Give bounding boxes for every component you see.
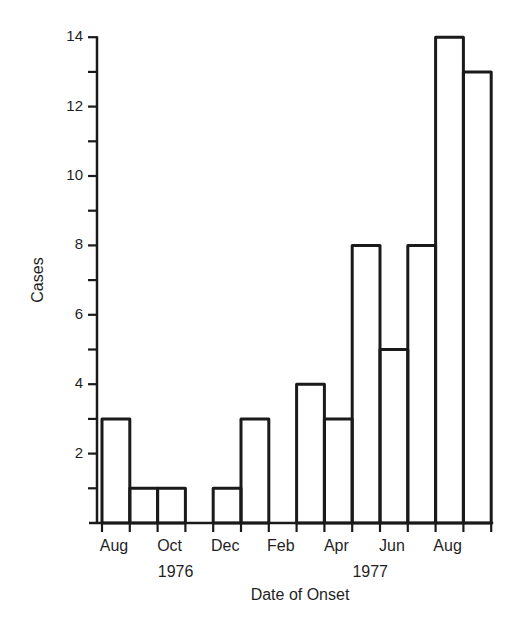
x-tick-label: Apr bbox=[324, 537, 349, 555]
y-tick-label: 4 bbox=[53, 374, 83, 391]
x-tick-label: Aug bbox=[433, 537, 461, 555]
x-tick-label: Feb bbox=[267, 537, 295, 555]
bar bbox=[297, 384, 325, 523]
axes bbox=[88, 36, 493, 532]
y-tick-label: 6 bbox=[53, 305, 83, 322]
bar bbox=[130, 488, 158, 523]
x-tick-label: Jun bbox=[379, 537, 405, 555]
bar bbox=[352, 245, 380, 523]
y-tick-label: 10 bbox=[53, 166, 83, 183]
bar bbox=[380, 350, 408, 524]
y-tick-label: 14 bbox=[53, 27, 83, 44]
year-label: 1977 bbox=[352, 563, 388, 581]
bar bbox=[324, 419, 352, 523]
y-tick-label: 2 bbox=[53, 444, 83, 461]
bar bbox=[408, 245, 436, 523]
bar bbox=[158, 488, 186, 523]
x-tick-label: Dec bbox=[211, 537, 239, 555]
bar bbox=[102, 419, 130, 523]
x-tick-label: Oct bbox=[157, 537, 182, 555]
year-label: 1976 bbox=[158, 563, 194, 581]
x-tick-label: Aug bbox=[100, 537, 128, 555]
x-axis-label: Date of Onset bbox=[251, 586, 350, 604]
y-axis-label: Cases bbox=[29, 257, 47, 302]
bar bbox=[213, 488, 241, 523]
y-tick-label: 8 bbox=[53, 235, 83, 252]
bar-series bbox=[102, 37, 491, 523]
bar bbox=[463, 72, 491, 523]
y-tick-label: 12 bbox=[53, 97, 83, 114]
bar bbox=[436, 37, 464, 523]
bar bbox=[241, 419, 269, 523]
